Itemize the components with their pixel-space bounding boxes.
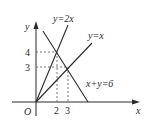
tick-y-3: 3	[25, 62, 30, 73]
tick-x-2: 2	[54, 105, 59, 116]
origin-label: O	[24, 106, 31, 117]
tick-x-3: 3	[65, 105, 70, 116]
tick-y-4: 4	[25, 47, 30, 58]
x-axis-arrow-icon	[132, 100, 140, 105]
label-x-plus-y-eq-6: x+y=6	[85, 78, 113, 89]
label-y-eq-2x: y=2x	[52, 13, 74, 24]
y-axis-label: y	[24, 21, 30, 32]
label-y-eq-x: y=x	[87, 30, 104, 41]
y-axis-arrow-icon	[34, 21, 39, 29]
coordinate-diagram: y x O 4 3 2 3 y=2x y=x x+y=6	[0, 0, 151, 126]
x-axis-label: x	[135, 105, 141, 116]
line-x-plus-y-eq-6	[43, 31, 88, 102]
